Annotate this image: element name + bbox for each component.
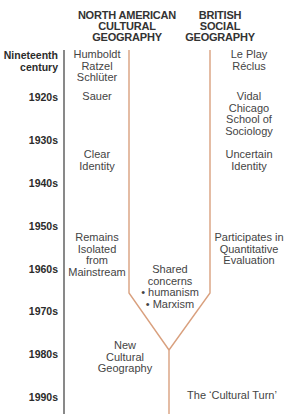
decade-1960s: 1960s <box>0 263 58 275</box>
decade-1950s: 1950s <box>0 220 58 232</box>
text-line: New <box>90 340 160 352</box>
na-clear-identity: Clear Identity <box>66 149 128 172</box>
british-participates: Participates in Quantitative Evaluation <box>206 232 292 267</box>
text-line: Clear <box>66 149 128 161</box>
british-1920s: Vidal Chicago School of Sociology <box>212 91 286 137</box>
na-1920s: Sauer <box>66 91 128 103</box>
text-line: from <box>64 255 130 267</box>
text-line: Identity <box>66 161 128 173</box>
cultural-turn: The ‘Cultural Turn’ <box>174 390 290 402</box>
text-line: Shared <box>134 264 206 276</box>
na-nineteenth-figures: Humboldt Ratzel Schlüter <box>66 49 128 84</box>
decade-1920s: 1920s <box>0 91 58 103</box>
na-remains-isolated: Remains Isolated from Mainstream <box>64 232 130 278</box>
text-line: Participates in <box>206 232 292 244</box>
text-line: Mainstream <box>64 267 130 279</box>
british-uncertain-identity: Uncertain Identity <box>212 149 286 172</box>
name: Réclus <box>212 61 286 73</box>
na-new-cultural-geography: New Cultural Geography <box>90 340 160 375</box>
british-header: BRITISH SOCIAL GEOGRAPHY <box>185 10 255 43</box>
name: Le Play <box>212 49 286 61</box>
header-line: GEOGRAPHY <box>62 32 192 43</box>
text-line: Remains <box>64 232 130 244</box>
text-line: Evaluation <box>206 255 292 267</box>
name: Humboldt <box>66 49 128 61</box>
header-line: GEOGRAPHY <box>185 32 255 43</box>
north-american-header: NORTH AMERICAN CULTURAL GEOGRAPHY <box>62 10 192 43</box>
decade-1930s: 1930s <box>0 134 58 146</box>
text-line: Identity <box>212 161 286 173</box>
text-line: • Marxism <box>134 299 206 311</box>
decade-1940s: 1940s <box>0 177 58 189</box>
text-line: Geography <box>90 363 160 375</box>
shared-concerns: Shared concerns • humanism • Marxism <box>134 264 206 310</box>
name: Schlüter <box>66 72 128 84</box>
british-nineteenth-figures: Le Play Réclus <box>212 49 286 72</box>
decade-1990s: 1990s <box>0 391 58 403</box>
text-line: Uncertain <box>212 149 286 161</box>
text-line: School of <box>212 114 286 126</box>
decade-1980s: 1980s <box>0 348 58 360</box>
decade-1970s: 1970s <box>0 305 58 317</box>
decade-nineteenth-century: Nineteenth century <box>0 49 58 73</box>
text-line: • humanism <box>134 287 206 299</box>
text-line: Vidal <box>212 91 286 103</box>
text-line: Sociology <box>212 126 286 138</box>
